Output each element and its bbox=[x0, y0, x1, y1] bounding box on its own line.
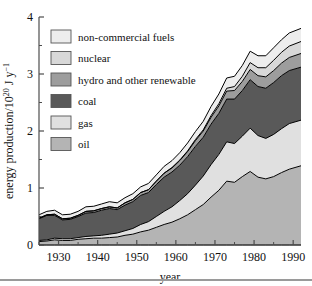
legend-swatch bbox=[51, 138, 71, 151]
chart-canvas: non-commercial fuelsnuclearhydro and oth… bbox=[0, 0, 312, 286]
legend-label: gas bbox=[78, 117, 93, 129]
legend-swatch bbox=[51, 116, 71, 129]
chart-legend: non-commercial fuelsnuclearhydro and oth… bbox=[51, 30, 196, 151]
y-tick-label: 0 bbox=[27, 238, 33, 252]
y-tick-label: 4 bbox=[27, 10, 33, 24]
legend-label: coal bbox=[78, 95, 96, 107]
x-axis-title: year bbox=[160, 270, 181, 284]
x-tick-label: 1950 bbox=[125, 250, 149, 264]
x-tick-label: 1960 bbox=[164, 250, 188, 264]
x-tick-label: 1980 bbox=[242, 250, 266, 264]
x-tick-label: 1940 bbox=[86, 250, 110, 264]
legend-label: nuclear bbox=[78, 52, 111, 64]
x-tick-label: 1990 bbox=[281, 250, 305, 264]
legend-swatch bbox=[51, 95, 71, 108]
legend-swatch bbox=[51, 73, 71, 86]
y-axis-title: energy production/1020 J y−1 bbox=[2, 63, 16, 199]
x-tick-label: 1930 bbox=[47, 250, 71, 264]
y-tick-label: 3 bbox=[27, 67, 33, 81]
legend-label: oil bbox=[78, 138, 90, 150]
legend-label: hydro and other renewable bbox=[78, 74, 196, 86]
y-tick-label: 1 bbox=[27, 181, 33, 195]
page-divider bbox=[0, 279, 312, 281]
legend-label: non-commercial fuels bbox=[78, 31, 174, 43]
legend-swatch bbox=[51, 30, 71, 43]
legend-swatch bbox=[51, 52, 71, 65]
y-tick-label: 2 bbox=[27, 124, 33, 138]
energy-production-chart: non-commercial fuelsnuclearhydro and oth… bbox=[0, 0, 312, 286]
x-tick-label: 1970 bbox=[203, 250, 227, 264]
